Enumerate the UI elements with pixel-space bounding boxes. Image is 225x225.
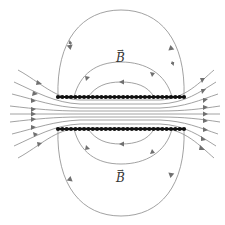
winding-wire bbox=[130, 127, 134, 131]
winding-wire bbox=[151, 95, 155, 99]
winding-wire bbox=[143, 95, 147, 99]
winding-wire bbox=[138, 127, 142, 131]
winding-wire bbox=[178, 127, 182, 131]
winding-wire bbox=[78, 95, 82, 99]
winding-wire bbox=[99, 95, 103, 99]
winding-wire bbox=[151, 127, 155, 131]
winding-wire bbox=[173, 95, 177, 99]
winding-wire bbox=[112, 95, 116, 99]
winding-wire bbox=[91, 127, 95, 131]
solenoid-bottom-windings bbox=[56, 127, 186, 131]
winding-wire bbox=[56, 95, 60, 99]
winding-wire bbox=[108, 95, 112, 99]
vector-arrow-mark: → bbox=[117, 167, 124, 175]
winding-wire bbox=[125, 127, 129, 131]
winding-wire bbox=[143, 127, 147, 131]
winding-wire bbox=[78, 127, 82, 131]
winding-wire bbox=[156, 127, 160, 131]
winding-wire bbox=[69, 95, 73, 99]
loop-arrows bbox=[67, 45, 175, 182]
winding-wire bbox=[147, 127, 151, 131]
lower-field-label: → B bbox=[116, 172, 125, 184]
winding-wire bbox=[178, 95, 182, 99]
winding-wire bbox=[82, 127, 86, 131]
winding-wire bbox=[86, 127, 90, 131]
solenoid-top-windings bbox=[56, 95, 186, 99]
winding-wire bbox=[182, 127, 186, 131]
winding-wire bbox=[121, 127, 125, 131]
winding-wire bbox=[130, 95, 134, 99]
winding-wire bbox=[125, 95, 129, 99]
winding-wire bbox=[95, 127, 99, 131]
winding-wire bbox=[117, 95, 121, 99]
upper-field-label: → B bbox=[116, 52, 125, 64]
vector-arrow-mark: → bbox=[117, 47, 124, 55]
winding-wire bbox=[169, 95, 173, 99]
winding-wire bbox=[138, 95, 142, 99]
winding-wire bbox=[56, 127, 60, 131]
field-lines-canvas bbox=[0, 0, 225, 225]
winding-wire bbox=[134, 127, 138, 131]
winding-wire bbox=[95, 95, 99, 99]
winding-wire bbox=[160, 127, 164, 131]
lower-inner-loop bbox=[88, 129, 154, 144]
winding-wire bbox=[156, 95, 160, 99]
winding-wire bbox=[99, 127, 103, 131]
winding-wire bbox=[160, 95, 164, 99]
solenoid-field-diagram: → B → B bbox=[0, 0, 225, 225]
winding-wire bbox=[165, 95, 169, 99]
winding-wire bbox=[60, 95, 64, 99]
upper-middle-loop bbox=[74, 62, 172, 97]
winding-wire bbox=[134, 95, 138, 99]
winding-wire bbox=[104, 127, 108, 131]
winding-wire bbox=[69, 127, 73, 131]
winding-wire bbox=[117, 127, 121, 131]
winding-wire bbox=[104, 95, 108, 99]
upper-inner-loop bbox=[88, 82, 154, 97]
winding-wire bbox=[165, 127, 169, 131]
winding-wire bbox=[73, 127, 77, 131]
winding-wire bbox=[169, 127, 173, 131]
winding-wire bbox=[82, 95, 86, 99]
lower-middle-loop bbox=[74, 129, 172, 164]
winding-wire bbox=[65, 127, 69, 131]
winding-wire bbox=[73, 95, 77, 99]
winding-wire bbox=[173, 127, 177, 131]
winding-wire bbox=[60, 127, 64, 131]
winding-wire bbox=[65, 95, 69, 99]
winding-wire bbox=[121, 95, 125, 99]
winding-wire bbox=[182, 95, 186, 99]
winding-wire bbox=[112, 127, 116, 131]
winding-wire bbox=[147, 95, 151, 99]
winding-wire bbox=[91, 95, 95, 99]
winding-wire bbox=[86, 95, 90, 99]
interior-field-lines bbox=[10, 70, 220, 158]
winding-wire bbox=[108, 127, 112, 131]
